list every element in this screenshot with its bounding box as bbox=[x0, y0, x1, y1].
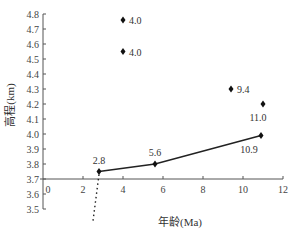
data-point-marker bbox=[153, 161, 158, 168]
y-tick-label: 3.5 bbox=[27, 204, 40, 215]
y-tick-label: 3.9 bbox=[27, 144, 40, 155]
x-tick-label: 8 bbox=[201, 184, 206, 195]
y-tick-label: 4.8 bbox=[27, 9, 40, 20]
y-tick-label: 4.4 bbox=[27, 69, 40, 80]
data-point-marker bbox=[229, 86, 234, 93]
y-tick-label: 3.8 bbox=[27, 159, 40, 170]
y-tick-label: 4.7 bbox=[27, 24, 40, 35]
trend-line bbox=[99, 136, 261, 172]
data-label: 4.0 bbox=[129, 47, 142, 58]
y-tick-label: 4.2 bbox=[27, 99, 40, 110]
data-label: 4.0 bbox=[129, 15, 142, 26]
y-axis-label: 高程(km) bbox=[3, 83, 17, 127]
y-tick-label: 4.5 bbox=[27, 54, 40, 65]
data-label: 11.0 bbox=[249, 112, 266, 123]
data-point-marker bbox=[261, 101, 266, 108]
chart: 3.53.63.73.83.94.04.14.24.34.44.54.64.74… bbox=[0, 0, 300, 242]
data-point-marker bbox=[259, 132, 264, 139]
y-tick-label: 3.6 bbox=[27, 189, 40, 200]
y-tick-label: 4.3 bbox=[27, 84, 40, 95]
x-tick-label: 10 bbox=[238, 184, 248, 195]
y-tick-label: 4.1 bbox=[27, 114, 40, 125]
x-tick-label: 12 bbox=[278, 184, 288, 195]
dotted-extension-line bbox=[93, 175, 99, 222]
data-label: 9.4 bbox=[237, 84, 250, 95]
y-tick-label: 4.6 bbox=[27, 39, 40, 50]
data-point-marker bbox=[121, 48, 126, 55]
x-tick-label: 0 bbox=[46, 184, 51, 195]
x-tick-label: 2 bbox=[81, 184, 86, 195]
data-label: 2.8 bbox=[93, 155, 106, 166]
x-tick-label: 6 bbox=[161, 184, 166, 195]
data-point-marker bbox=[121, 17, 126, 24]
data-point-marker bbox=[97, 168, 102, 175]
x-axis-label: 年龄(Ma) bbox=[158, 215, 202, 229]
y-tick-label: 3.7 bbox=[27, 174, 40, 185]
x-tick-label: 4 bbox=[121, 184, 126, 195]
data-label: 5.6 bbox=[149, 147, 162, 158]
data-label: 10.9 bbox=[240, 144, 258, 155]
y-tick-label: 4.0 bbox=[27, 129, 40, 140]
